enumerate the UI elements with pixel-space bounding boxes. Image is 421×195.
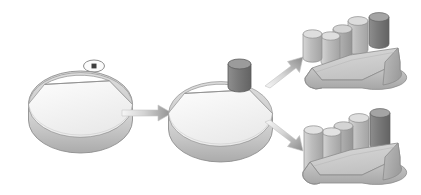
diagram-canvas (0, 0, 421, 195)
part-upper-boss-4 (369, 13, 389, 49)
datum-point-marker (84, 60, 105, 72)
datum-point-dot (92, 64, 97, 69)
stage-1-disk-blank[interactable] (28, 71, 132, 153)
disk2-boss-cylinder (228, 59, 251, 92)
part-lower-boss-4 (370, 109, 390, 150)
process-diagram-svg (0, 0, 421, 195)
part-upper-boss-1 (303, 30, 322, 62)
boss-cylinder-top (228, 59, 251, 69)
